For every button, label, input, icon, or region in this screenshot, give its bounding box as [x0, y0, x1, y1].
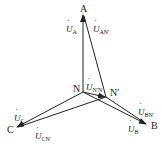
label-u-b: UB — [128, 124, 139, 137]
phasor-diagram: A B C N N' UA UAN' UN'N UBN' UB UC UCN' — [0, 0, 162, 155]
label-u-nprime-n: UN'N — [86, 82, 102, 95]
point-nprime-label: N' — [110, 88, 119, 98]
point-n-label: N — [73, 84, 80, 94]
label-u-c: UC — [14, 113, 25, 126]
point-c-label: C — [7, 125, 14, 135]
label-u-an-prime: UAN' — [93, 24, 109, 37]
vector-u-c — [17, 92, 83, 127]
label-u-bn-prime: UBN' — [138, 107, 154, 120]
vector-u-cn-prime — [18, 97, 106, 127]
label-u-cn-prime: UCN' — [35, 131, 51, 144]
point-b-label: B — [151, 121, 158, 131]
label-u-a: UA — [66, 24, 77, 37]
point-a-label: A — [80, 4, 87, 14]
